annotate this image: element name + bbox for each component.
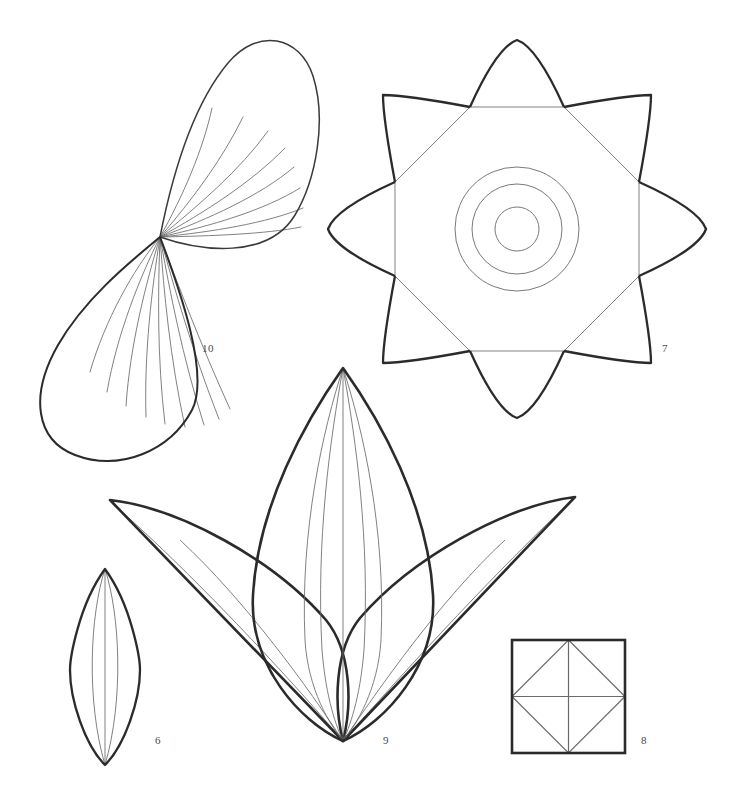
figure-plate: 10 7 6 9 8: [0, 0, 731, 810]
figure-9-center-veins: [304, 368, 381, 741]
figure-8-square-diamond: [512, 640, 625, 753]
figure-6-veins: [92, 569, 118, 765]
figure-7-circle-middle: [472, 184, 562, 274]
figure-10-upper-veins: [160, 108, 303, 237]
figure-10-lower-outline: [40, 237, 197, 461]
plate-drawing: [0, 0, 731, 810]
figure-7-circle-outer: [455, 167, 579, 291]
figure-7-star-outline: [328, 40, 706, 418]
figure-label-6: 6: [155, 735, 161, 746]
figure-8-inner-lines: [512, 640, 625, 753]
figure-9-left-leaf: [110, 500, 348, 741]
figure-label-8: 8: [641, 735, 647, 746]
figure-label-7: 7: [662, 343, 668, 354]
figure-label-9: 9: [383, 735, 389, 746]
figure-10-lower-veins: [90, 237, 230, 427]
figure-9-right-leaf: [338, 497, 575, 741]
figure-7-concentric-circles: [455, 167, 579, 291]
figure-7-rosette: [328, 40, 706, 418]
figure-10-double-teardrop: [40, 40, 319, 461]
figure-6-lens-leaf: [70, 569, 140, 765]
figure-7-octagon: [395, 107, 639, 351]
figure-label-10: 10: [202, 343, 214, 354]
figure-7-circle-inner: [495, 207, 539, 251]
figure-9-leaf-spray: [110, 368, 575, 741]
